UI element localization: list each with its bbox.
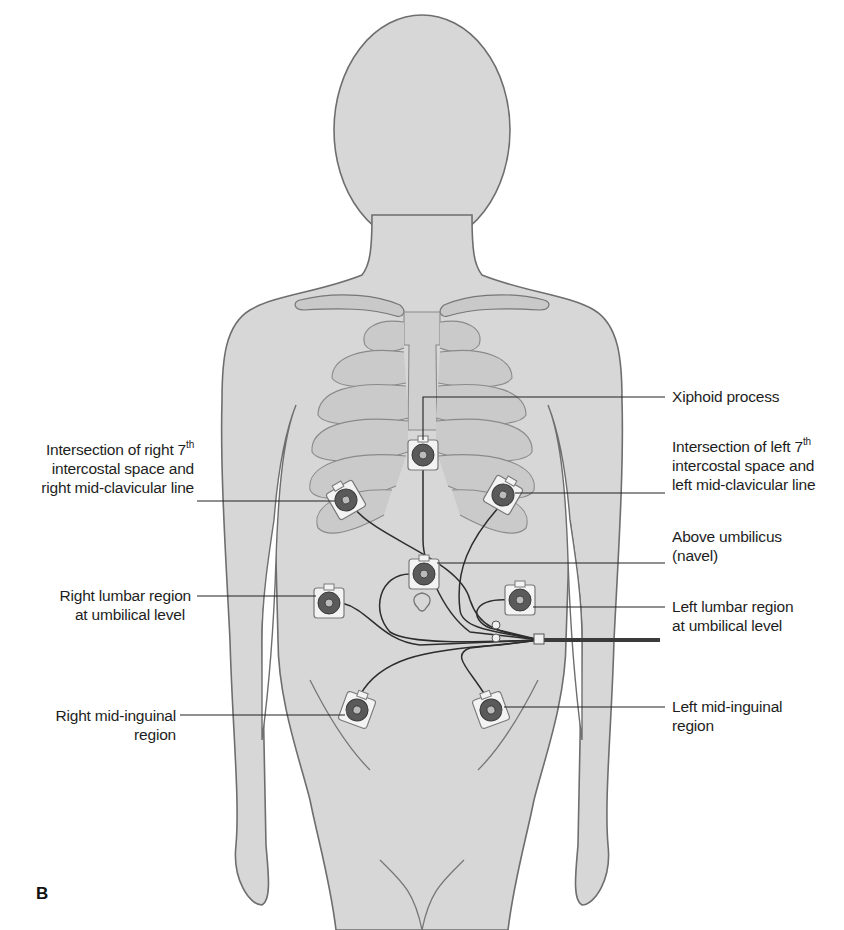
label-left-mid-inguinal: Left mid-inguinal region: [672, 697, 782, 735]
electrode-right-lumbar: [314, 584, 344, 618]
electrode-above-umbilicus: [409, 555, 439, 589]
electrode-left-lumbar: [505, 581, 535, 615]
label-above-umbilicus: Above umbilicus (navel): [672, 527, 782, 565]
label-right-7th-intercostal: Intersection of right 7th intercostal sp…: [0, 440, 194, 497]
label-right-lumbar: Right lumbar region at umbilical level: [0, 586, 191, 624]
panel-letter: B: [36, 884, 48, 904]
electrode-xiphoid: [408, 436, 438, 470]
label-xiphoid-process: Xiphoid process: [672, 387, 779, 406]
label-left-lumbar: Left lumbar region at umbilical level: [672, 597, 793, 635]
label-left-7th-intercostal: Intersection of left 7th intercostal spa…: [672, 437, 815, 494]
label-right-mid-inguinal: Right mid-inguinal region: [0, 706, 176, 744]
